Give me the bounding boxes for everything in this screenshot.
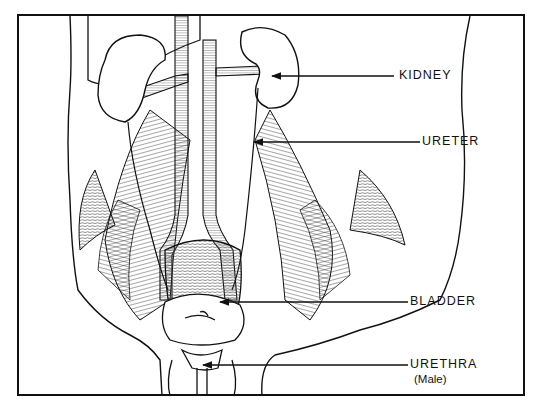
label-urethra-note: (Male)	[414, 373, 447, 385]
anatomy-illustration	[0, 0, 545, 412]
label-ureter: URETER	[422, 134, 479, 148]
bladder-region	[162, 240, 244, 396]
label-kidney: KIDNEY	[399, 68, 452, 82]
kidneys	[98, 28, 299, 122]
label-bladder: BLADDER	[410, 294, 476, 308]
label-urethra: URETHRA	[410, 357, 477, 371]
